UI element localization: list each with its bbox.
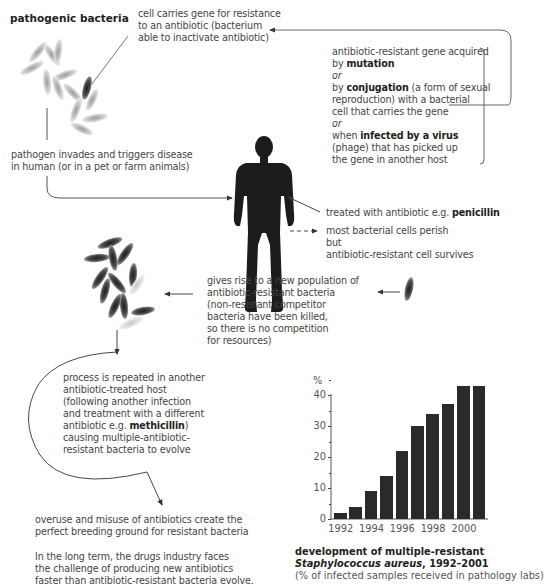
- resistant-bacteria-cluster: [84, 235, 156, 332]
- chart-caption: development of multiple-resistant Staphy…: [295, 546, 544, 582]
- label-overuse: overuse and misuse of antibiotics create…: [35, 514, 248, 538]
- label-pathogen-invades: pathogen invades and triggers disease in…: [11, 149, 193, 173]
- label-new-population: gives rise to a new population of antibi…: [207, 275, 359, 347]
- label-perish: most bacterial cells perish but antibiot…: [326, 225, 473, 261]
- label-process-repeated: process is repeated in another antibioti…: [63, 372, 205, 456]
- label-treated: treated with antibiotic e.g. penicillin: [326, 207, 500, 219]
- label-resistant-cell: cell carries gene for resistance to an a…: [138, 8, 281, 44]
- pathogenic-bacteria-cluster: [19, 39, 109, 138]
- label-gene-acquired: antibiotic-resistant gene acquired by mu…: [332, 46, 490, 166]
- label-long-term: In the long term, the drugs industry fac…: [35, 551, 254, 587]
